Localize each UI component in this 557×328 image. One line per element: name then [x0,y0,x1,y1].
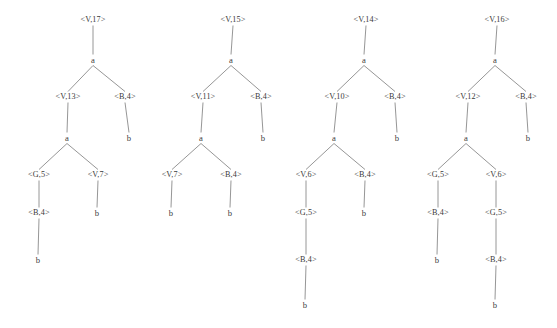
tree-terminal-node: b [362,209,366,218]
tree-edge [39,144,67,170]
tree-edge [305,266,306,300]
tree-terminal-node: a [199,134,203,143]
tree-nonterminal-node: <G,5> [485,209,507,217]
tree-nonterminal-node: <B,4> [295,256,316,264]
tree-nonterminal-node: <B,4> [485,256,506,264]
tree-nonterminal-node: <V,13> [56,93,81,101]
tree-edge [437,219,438,255]
tree-edge [97,181,98,208]
tree-edge [334,144,365,170]
tree-edge [334,103,337,133]
tree-terminal-node: a [229,56,233,65]
tree-nonterminal-node: <V,6> [296,171,317,179]
tree-nonterminal-node: <V,14> [354,16,379,24]
tree-edge [172,144,201,170]
tree-nonterminal-node: <B,4> [384,93,405,101]
tree-edge [261,103,263,133]
tree-edge [466,144,496,170]
tree-terminal-node: b [261,134,265,143]
tree-edge [364,181,365,208]
tree-edge [364,66,395,92]
tree-edge [231,26,233,55]
tree-nonterminal-node: <V,7> [162,171,183,179]
tree-edge [203,66,231,92]
tree-nonterminal-node: <V,15> [221,16,246,24]
tree-terminal-node: b [526,134,530,143]
tree-nonterminal-node: <B,4> [250,93,271,101]
tree-edge [468,66,495,92]
tree-edge [495,66,526,92]
tree-terminal-node: b [228,209,232,218]
tree-nonterminal-node: <B,4> [28,209,49,217]
derivation-trees-figure: <V,17>a<V,13><B,4>ab<G,5><V,7><B,4>bb<V,… [0,0,557,328]
tree-terminal-node: a [65,134,69,143]
tree-nonterminal-node: <V,17> [81,16,106,24]
tree-nonterminal-node: <G,5> [28,171,50,179]
tree-terminal-node: a [493,56,497,65]
tree-nonterminal-node: <V,12> [456,93,481,101]
tree-edge [230,181,231,208]
tree-terminal-node: b [127,134,131,143]
tree-nonterminal-node: <B,4> [427,209,448,217]
tree-terminal-node: a [362,56,366,65]
tree-nonterminal-node: <G,5> [427,171,449,179]
tree-nonterminal-node: <G,5> [295,209,317,217]
tree-nonterminal-node: <V,6> [486,171,507,179]
tree-edge [337,66,364,92]
tree-terminal-node: b [493,301,497,310]
tree-edge [201,103,203,133]
tree-edge [93,66,125,92]
tree-nonterminal-node: <V,11> [191,93,216,101]
tree-edge [171,181,172,208]
tree-terminal-node: b [395,134,399,143]
tree-nonterminal-node: <B,4> [220,171,241,179]
tree-terminal-node: b [169,209,173,218]
tree-edge [466,103,468,133]
tree-terminal-node: b [95,209,99,218]
tree-edge [231,66,261,92]
tree-nonterminal-node: <V,10> [325,93,350,101]
tree-terminal-node: b [36,256,40,265]
tree-edge [201,144,231,170]
tree-nonterminal-node: <B,4> [515,93,536,101]
tree-nonterminal-node: <V,16> [485,16,510,24]
tree-terminal-node: a [464,134,468,143]
tree-edge [38,219,39,255]
tree-terminal-node: a [332,134,336,143]
tree-edge [395,103,397,133]
tree-edge [67,144,98,170]
tree-nonterminal-node: <V,7> [88,171,109,179]
tree-edge [67,103,68,133]
tree-edge [495,266,496,300]
tree-edge [438,144,466,170]
tree-edge [125,103,129,133]
tree-terminal-node: b [435,256,439,265]
tree-nonterminal-node: <B,4> [354,171,375,179]
tree-nonterminal-node: <B,4> [114,93,135,101]
tree-edge [364,26,366,55]
tree-terminal-node: b [303,301,307,310]
tree-edge [526,103,528,133]
tree-edge [306,144,334,170]
tree-edge [495,26,497,55]
tree-edges-layer [0,0,557,328]
tree-edge [68,66,93,92]
tree-terminal-node: a [91,56,95,65]
